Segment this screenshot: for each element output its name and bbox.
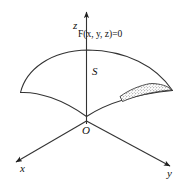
y-axis-line [87, 121, 171, 166]
x-axis-line [16, 121, 87, 162]
surface-integral-diagram: z F(x, y, z)=0 S O x y [0, 0, 184, 195]
origin-label: O [82, 125, 90, 136]
surface-equation-label: F(x, y, z)=0 [78, 30, 122, 40]
surface-front-edge-left [21, 92, 87, 116]
y-axis-label: y [167, 168, 172, 179]
surface-element-patch [120, 84, 172, 102]
z-axis-label: z [73, 20, 77, 31]
surface-element-patch-shape [120, 84, 172, 102]
x-axis-label: x [20, 163, 25, 174]
surface-label: S [92, 66, 98, 77]
